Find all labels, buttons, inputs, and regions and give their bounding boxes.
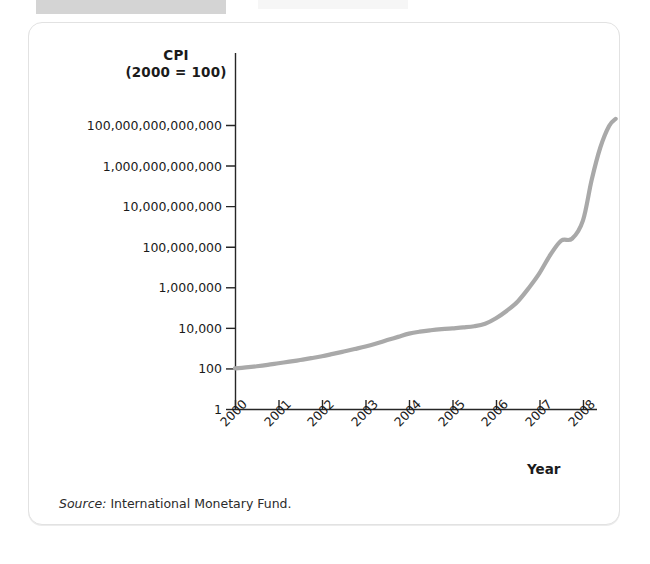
- chart-series-group: [235, 119, 616, 369]
- y-axis-tick-label: 10,000,000,000: [123, 199, 222, 214]
- source-note-label: Source:: [59, 496, 106, 511]
- y-axis-tick-label: 100,000,000: [142, 239, 222, 254]
- chart-axes: [235, 53, 597, 410]
- y-axis-tick-label: 100: [198, 361, 222, 376]
- page-header-block: [36, 0, 226, 14]
- data-line-zimbabwe-cpi: [235, 119, 616, 369]
- y-axis-tick-label: 10,000: [178, 320, 222, 335]
- y-axis-tick-label: 100,000,000,000,000: [87, 118, 222, 133]
- page-header-faint-text: [258, 0, 408, 9]
- source-note: Source: International Monetary Fund.: [59, 496, 292, 511]
- x-axis-title: Year: [527, 461, 560, 477]
- y-axis-tick-label: 1,000,000,000,000: [103, 158, 222, 173]
- y-axis-tick-label: 1,000,000: [158, 280, 222, 295]
- source-note-text: International Monetary Fund.: [106, 496, 291, 511]
- figure-card: CPI (2000 = 100) 100,000,000,000,0001,00…: [28, 22, 620, 525]
- page-top-strip: [0, 0, 650, 22]
- chart-plot-area: [29, 23, 619, 524]
